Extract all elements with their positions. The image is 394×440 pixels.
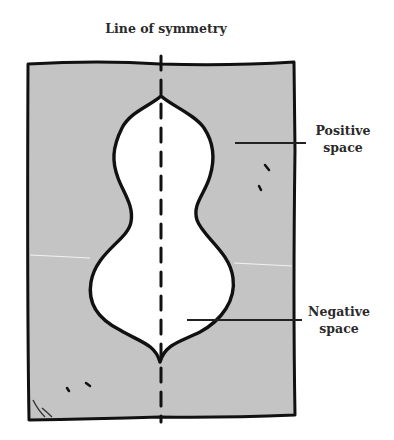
positive-label-line1: Positive xyxy=(304,122,382,139)
negative-space-label: Negative space xyxy=(300,303,378,337)
positive-label-line2: space xyxy=(304,139,382,156)
line-of-symmetry-label: Line of symmetry xyxy=(96,20,236,37)
positive-space-label: Positive space xyxy=(304,122,382,156)
negative-label-line2: space xyxy=(300,320,378,337)
negative-label-line1: Negative xyxy=(300,303,378,320)
symmetry-diagram xyxy=(0,0,394,440)
